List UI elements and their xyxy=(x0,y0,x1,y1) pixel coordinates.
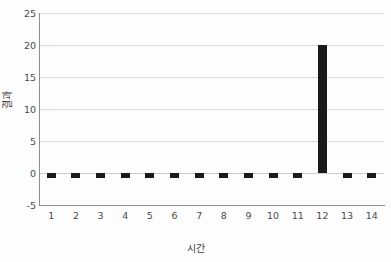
bar xyxy=(96,173,105,178)
gridline xyxy=(39,141,384,142)
y-axis-tick-label: 20 xyxy=(0,40,36,51)
x-axis-tick-label: 3 xyxy=(89,210,113,221)
bar xyxy=(47,173,56,178)
bar-chart-figure: -50510152025 1234567891011121314 시간 결과 xyxy=(0,0,391,262)
x-axis-tick-label: 6 xyxy=(163,210,187,221)
x-axis-tick-label: 10 xyxy=(261,210,285,221)
bar xyxy=(170,173,179,178)
x-axis-label: 시간 xyxy=(0,240,391,255)
gridline xyxy=(39,173,384,174)
bar xyxy=(71,173,80,178)
plot-area xyxy=(39,13,384,205)
x-axis-tick-label: 8 xyxy=(212,210,236,221)
x-axis-tick-label: 7 xyxy=(187,210,211,221)
bar xyxy=(343,173,352,178)
bar xyxy=(121,173,130,178)
x-axis-tick-label: 5 xyxy=(138,210,162,221)
bar xyxy=(145,173,154,178)
y-axis-tick-label: 5 xyxy=(0,136,36,147)
x-axis-tick-label: 9 xyxy=(236,210,260,221)
y-axis-tick-label: -5 xyxy=(0,200,36,211)
bar xyxy=(244,173,253,178)
bar xyxy=(195,173,204,178)
x-axis-tick-label: 4 xyxy=(113,210,137,221)
x-axis-tick-label: 2 xyxy=(64,210,88,221)
x-axis-tick-label: 11 xyxy=(286,210,310,221)
bar xyxy=(367,173,376,178)
gridline xyxy=(39,77,384,78)
x-axis-tick-label: 14 xyxy=(360,210,384,221)
bar xyxy=(219,173,228,178)
gridline xyxy=(39,13,384,14)
gridline xyxy=(39,45,384,46)
x-axis-spine xyxy=(39,205,385,206)
bar xyxy=(318,45,327,173)
bar xyxy=(293,173,302,178)
y-axis-spine xyxy=(39,13,40,206)
bar xyxy=(269,173,278,178)
gridline xyxy=(39,109,384,110)
y-axis-label: 결과 xyxy=(0,68,14,132)
y-axis-tick-label: 25 xyxy=(0,8,36,19)
x-axis-tick-label: 1 xyxy=(39,210,63,221)
x-axis-tick-label: 13 xyxy=(335,210,359,221)
y-axis-tick-label: 0 xyxy=(0,168,36,179)
x-axis-tick-label: 12 xyxy=(310,210,334,221)
